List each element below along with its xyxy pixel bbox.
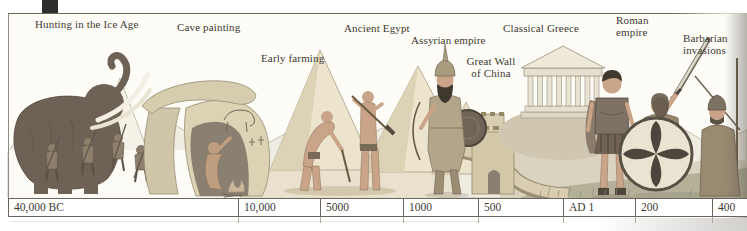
timeline-tick <box>563 198 564 217</box>
timeline-label: AD 1 <box>569 201 594 213</box>
timeline-tick <box>403 198 404 217</box>
scene-label-hunting-ice-age: Hunting in the Ice Age <box>35 18 139 30</box>
timeline-label: 400 <box>718 201 735 213</box>
timeline-subtick <box>563 217 564 223</box>
timeline-tick <box>478 198 479 217</box>
timeline-tick <box>320 198 321 217</box>
timeline-label: 500 <box>484 201 501 213</box>
timeline-bar <box>8 198 747 217</box>
timeline-tick <box>635 198 636 217</box>
scene-label-classical-greece: Classical Greece <box>503 22 579 34</box>
scene-label-barbarian-invasions: Barbarian invasions <box>683 32 728 57</box>
timeline-subtick <box>478 217 479 223</box>
timeline-subtick <box>712 217 713 223</box>
scene-label-assyrian-empire: Assyrian empire <box>411 34 486 46</box>
timeline-subtick <box>238 217 239 223</box>
timeline-label: 10,000 <box>244 201 276 213</box>
scene-label-ancient-egypt: Ancient Egypt <box>344 22 410 34</box>
timeline-panorama-page: Hunting in the Ice AgeCave paintingEarly… <box>0 0 747 231</box>
timeline-subtick <box>320 217 321 223</box>
timeline-tick <box>238 198 239 217</box>
scene-label-early-farming: Early farming <box>261 52 324 64</box>
timeline-label: 40,000 BC <box>14 201 64 213</box>
timeline-subtick <box>403 217 404 223</box>
panel-left-border <box>8 13 9 217</box>
scene-label-great-wall-of-china: Great Wall of China <box>467 55 516 80</box>
page-bottom-shadow <box>597 218 747 231</box>
timeline-label: 200 <box>641 201 658 213</box>
page-edge-shadow <box>725 13 747 218</box>
timeline-label: 5000 <box>326 201 349 213</box>
timeline-subtick <box>635 217 636 223</box>
cave-illustration <box>142 81 270 197</box>
show-through-line <box>10 221 480 222</box>
scene-label-cave-painting: Cave painting <box>177 21 240 33</box>
timeline-tick <box>712 198 713 217</box>
timeline-label: 1000 <box>409 201 432 213</box>
scene-label-roman-empire: Roman empire <box>616 14 649 39</box>
page-corner-tab <box>42 0 58 13</box>
